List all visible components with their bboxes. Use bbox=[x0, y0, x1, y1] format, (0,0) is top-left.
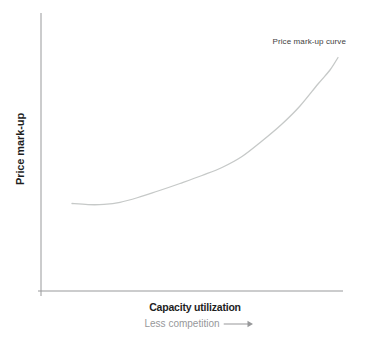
y-axis-label: Price mark-up bbox=[14, 113, 26, 185]
price-markup-curve-line bbox=[72, 58, 338, 205]
x-axis-secondary-label: Less competition bbox=[144, 318, 253, 329]
plot-area bbox=[0, 0, 369, 344]
long-right-arrow-icon bbox=[224, 320, 254, 328]
x-axis-label: Capacity utilization bbox=[149, 301, 241, 313]
secondary-label-text: Less competition bbox=[144, 318, 219, 329]
price-markup-chart: Price mark-up curve Price mark-up Capaci… bbox=[0, 0, 369, 344]
curve-annotation: Price mark-up curve bbox=[273, 37, 346, 46]
